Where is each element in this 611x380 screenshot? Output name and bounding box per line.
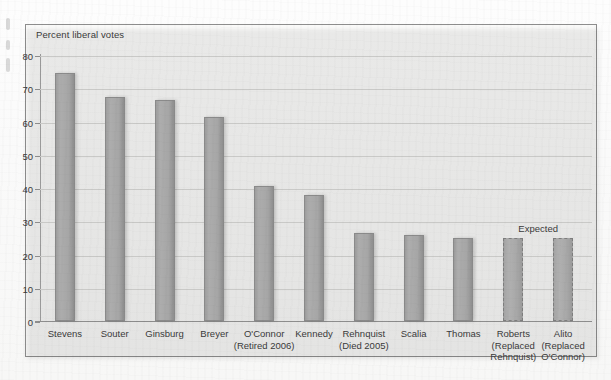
y-tick-mark-70	[35, 89, 40, 90]
y-tick-label-40: 40	[22, 184, 33, 195]
bar-alito	[553, 238, 573, 321]
bar-souter	[105, 97, 125, 321]
x-axis-label-souter: Souter	[101, 328, 129, 340]
x-axis-label-roberts: Roberts(ReplacedRehnquist)	[490, 328, 536, 363]
x-axis-label-sub: (Died 2005)	[339, 340, 389, 352]
x-axis-label-name: Breyer	[200, 328, 228, 339]
x-axis-label-thomas: Thomas	[446, 328, 480, 340]
y-axis-title: Percent liberal votes	[36, 29, 124, 40]
x-axis-label-stevens: Stevens	[48, 328, 82, 340]
x-axis-label-name: O'Connor	[244, 328, 284, 339]
bar-rehnquist	[354, 233, 374, 321]
x-axis-label-oconnor: O'Connor(Retired 2006)	[234, 328, 295, 351]
x-axis-label-name: Souter	[101, 328, 129, 339]
x-axis-label-sub: (Replaced	[490, 340, 536, 352]
y-tick-mark-10	[35, 289, 40, 290]
gridline-0	[40, 322, 592, 323]
x-axis-label-rehnquist: Rehnquist(Died 2005)	[339, 328, 389, 351]
x-axis-label-sub: (Replaced	[541, 340, 585, 352]
x-axis-label-name: Alito	[554, 328, 572, 339]
x-axis-label-sub: Rehnquist)	[490, 351, 536, 363]
x-axis-label-name: Thomas	[446, 328, 480, 339]
bar-stevens	[55, 73, 75, 321]
scan-edge-mark	[6, 40, 10, 50]
bar-thomas	[453, 238, 473, 321]
bar-roberts	[503, 238, 523, 321]
gridline-70	[40, 89, 592, 90]
y-tick-label-60: 60	[22, 117, 33, 128]
x-axis-label-ginsburg: Ginsburg	[145, 328, 184, 340]
x-axis-label-breyer: Breyer	[200, 328, 228, 340]
x-axis-label-name: Ginsburg	[145, 328, 184, 339]
bar-oconnor	[254, 186, 274, 321]
x-axis-label-kennedy: Kennedy	[295, 328, 333, 340]
y-tick-mark-0	[35, 322, 40, 323]
scan-edge-mark	[6, 58, 10, 72]
bar-kennedy	[304, 195, 324, 321]
y-tick-mark-50	[35, 156, 40, 157]
y-tick-label-10: 10	[22, 283, 33, 294]
bar-breyer	[204, 117, 224, 321]
scan-edge-mark	[6, 18, 10, 30]
x-axis-label-alito: Alito(ReplacedO'Connor)	[541, 328, 585, 363]
y-axis-line	[40, 54, 41, 322]
bar-ginsburg	[155, 100, 175, 321]
bar-scalia	[404, 235, 424, 321]
y-tick-mark-30	[35, 222, 40, 223]
y-tick-label-80: 80	[22, 51, 33, 62]
y-tick-mark-80	[35, 56, 40, 57]
y-tick-label-70: 70	[22, 84, 33, 95]
x-axis-label-name: Stevens	[48, 328, 82, 339]
y-tick-label-30: 30	[22, 217, 33, 228]
x-axis-label-sub: (Retired 2006)	[234, 340, 295, 352]
y-tick-label-20: 20	[22, 250, 33, 261]
y-tick-mark-60	[35, 123, 40, 124]
expected-annotation: Expected	[518, 223, 558, 234]
plot-area: 01020304050607080	[40, 56, 588, 322]
chart-page: Percent liberal votes 01020304050607080 …	[0, 0, 611, 380]
x-axis-label-name: Roberts	[497, 328, 530, 339]
y-tick-label-50: 50	[22, 150, 33, 161]
x-axis-label-scalia: Scalia	[401, 328, 427, 340]
x-axis-label-name: Scalia	[401, 328, 427, 339]
y-tick-mark-20	[35, 256, 40, 257]
x-axis-label-sub: O'Connor)	[541, 351, 585, 363]
gridline-80	[40, 56, 592, 57]
x-axis-label-name: Rehnquist	[342, 328, 385, 339]
y-tick-mark-40	[35, 189, 40, 190]
y-tick-label-0: 0	[28, 317, 33, 328]
x-axis-label-name: Kennedy	[295, 328, 333, 339]
